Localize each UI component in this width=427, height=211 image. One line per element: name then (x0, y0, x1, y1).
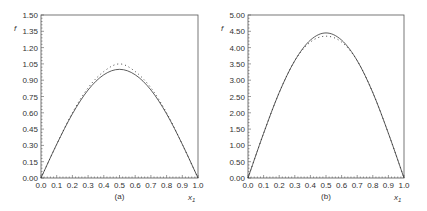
y-tick-label: 0.75 (22, 93, 38, 102)
series-dotted (248, 36, 404, 178)
x-tick-label: 0.5 (320, 181, 332, 190)
x-tick-label: 0.9 (383, 181, 395, 190)
x-tick-label: 0.4 (305, 181, 317, 190)
panel-label: (b) (321, 192, 331, 201)
chart-panel-a: 0.00.10.20.30.40.50.60.70.80.91.00.000.1… (14, 11, 204, 203)
y-tick-label: 1.20 (22, 44, 38, 53)
y-tick-label: 3.00 (229, 76, 245, 85)
x-tick-label: 0.8 (161, 181, 173, 190)
y-tick-label: 0.15 (22, 158, 38, 167)
y-axis-label: f (14, 24, 17, 33)
x-tick-label: 0.6 (130, 181, 142, 190)
x-tick-label: 0.9 (177, 181, 189, 190)
series-solid (248, 33, 404, 178)
x-tick-label: 1.0 (398, 181, 410, 190)
y-tick-label: 3.50 (229, 60, 245, 69)
panel-label: (a) (115, 192, 125, 201)
plot-frame (41, 15, 198, 178)
x-tick-label: 0.7 (145, 181, 157, 190)
y-axis-label: f (221, 24, 224, 33)
x-tick-label: 0.8 (367, 181, 379, 190)
x-tick-label: 0.2 (67, 181, 79, 190)
x-tick-label: 0.4 (98, 181, 110, 190)
y-tick-label: 1.50 (229, 125, 245, 134)
x-tick-label: 1.0 (192, 181, 204, 190)
x-tick-label: 0.5 (114, 181, 126, 190)
x-tick-label: 0.1 (51, 181, 63, 190)
x-tick-label: 0.3 (289, 181, 301, 190)
plot-frame (248, 15, 404, 178)
x-tick-label: 0.1 (258, 181, 270, 190)
y-tick-label: 5.00 (229, 11, 245, 20)
chart-panel-b: 0.00.10.20.30.40.50.60.70.80.91.00.000.5… (221, 11, 410, 203)
x-tick-label: 0.2 (274, 181, 286, 190)
x-tick-label: 0.6 (336, 181, 348, 190)
y-tick-label: 1.05 (22, 60, 38, 69)
series-solid (41, 69, 198, 178)
x-tick-label: 0.7 (352, 181, 364, 190)
figure: 0.00.10.20.30.40.50.60.70.80.91.00.000.1… (0, 0, 427, 211)
y-tick-label: 0.50 (229, 158, 245, 167)
y-tick-label: 0.00 (22, 174, 38, 183)
y-tick-label: 2.00 (229, 109, 245, 118)
x-axis-label: x1 (187, 193, 195, 203)
y-tick-label: 0.45 (22, 125, 38, 134)
y-tick-label: 0.00 (229, 174, 245, 183)
y-tick-label: 0.60 (22, 109, 38, 118)
x-axis-label: x1 (393, 193, 401, 203)
x-tick-label: 0.3 (83, 181, 95, 190)
y-tick-label: 1.35 (22, 27, 38, 36)
y-tick-label: 0.30 (22, 141, 38, 150)
y-tick-label: 1.00 (229, 141, 245, 150)
y-tick-label: 1.50 (22, 11, 38, 20)
y-tick-label: 4.00 (229, 44, 245, 53)
y-tick-label: 4.50 (229, 27, 245, 36)
y-tick-label: 0.90 (22, 76, 38, 85)
y-tick-label: 2.50 (229, 93, 245, 102)
series-dotted (41, 64, 198, 178)
